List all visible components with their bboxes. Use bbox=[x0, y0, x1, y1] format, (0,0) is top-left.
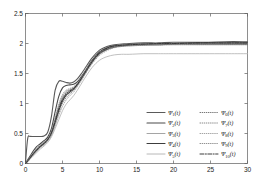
legend-label-psi_1: Ψ1(t) bbox=[168, 109, 180, 118]
curve-group bbox=[26, 42, 248, 164]
legend-entry-psi_5[interactable]: Ψ5(t) bbox=[147, 150, 180, 159]
legend-entry-psi_9[interactable]: Ψ9(t) bbox=[200, 140, 233, 149]
legend-entry-psi_8[interactable]: Ψ8(t) bbox=[200, 130, 233, 139]
curve-psi_9 bbox=[26, 43, 248, 163]
legend-entry-psi_10[interactable]: Ψ10(t) bbox=[200, 150, 236, 159]
figure: 05101520253000.511.522.5 Ψ1(t)Ψ2(t)Ψ3(t)… bbox=[0, 0, 258, 188]
line-chart: 05101520253000.511.522.5 Ψ1(t)Ψ2(t)Ψ3(t)… bbox=[0, 0, 258, 188]
x-tick-label: 15 bbox=[133, 166, 141, 173]
legend-entry-psi_7[interactable]: Ψ7(t) bbox=[200, 119, 233, 128]
legend-entry-psi_4[interactable]: Ψ4(t) bbox=[147, 140, 180, 149]
y-tick-label: 2.5 bbox=[14, 10, 23, 17]
y-tick-label: 1.5 bbox=[14, 70, 23, 77]
legend[interactable]: Ψ1(t)Ψ2(t)Ψ3(t)Ψ4(t)Ψ5(t)Ψ6(t)Ψ7(t)Ψ8(t)… bbox=[147, 109, 236, 159]
legend-label-psi_9: Ψ9(t) bbox=[221, 140, 233, 149]
legend-entry-psi_2[interactable]: Ψ2(t) bbox=[147, 119, 180, 128]
curve-psi_3 bbox=[26, 43, 248, 162]
legend-label-psi_10: Ψ10(t) bbox=[221, 150, 236, 159]
legend-entry-psi_1[interactable]: Ψ1(t) bbox=[147, 109, 180, 118]
legend-entry-psi_6[interactable]: Ψ6(t) bbox=[200, 109, 233, 118]
tick-label-group: 05101520253000.511.522.5 bbox=[14, 10, 252, 173]
x-tick-label: 5 bbox=[61, 166, 65, 173]
x-tick-label: 25 bbox=[207, 166, 215, 173]
legend-label-psi_7: Ψ7(t) bbox=[221, 119, 233, 128]
legend-label-psi_3: Ψ3(t) bbox=[168, 130, 180, 139]
curve-psi_10 bbox=[26, 43, 248, 164]
legend-label-psi_2: Ψ2(t) bbox=[168, 119, 180, 128]
curve-psi_1 bbox=[26, 42, 248, 163]
x-tick-label: 10 bbox=[96, 166, 104, 173]
legend-label-psi_6: Ψ6(t) bbox=[221, 109, 233, 118]
legend-entry-psi_3[interactable]: Ψ3(t) bbox=[147, 130, 180, 139]
plot-frame bbox=[26, 14, 248, 164]
legend-label-psi_5: Ψ5(t) bbox=[168, 150, 180, 159]
y-tick-label: 1 bbox=[19, 100, 23, 107]
legend-label-psi_4: Ψ4(t) bbox=[168, 140, 180, 149]
curve-psi_6 bbox=[26, 43, 248, 163]
y-tick-label: 2 bbox=[19, 40, 23, 47]
y-tick-label: 0 bbox=[19, 160, 23, 167]
x-tick-label: 0 bbox=[24, 166, 28, 173]
y-tick-label: 0.5 bbox=[14, 130, 23, 137]
curve-psi_2 bbox=[26, 43, 248, 163]
x-tick-label: 20 bbox=[170, 166, 178, 173]
axes bbox=[26, 14, 248, 164]
x-tick-label: 30 bbox=[244, 166, 252, 173]
legend-label-psi_8: Ψ8(t) bbox=[221, 130, 233, 139]
